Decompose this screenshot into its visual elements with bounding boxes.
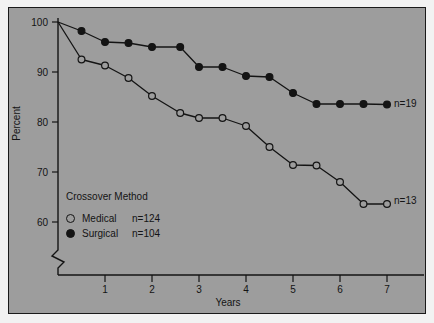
legend-row-surgical: Surgical n=104 bbox=[66, 226, 216, 241]
y-tick-label-100: 100 bbox=[22, 17, 48, 28]
legend: Crossover Method Medical n=124 Surgical … bbox=[66, 191, 216, 241]
open-circle-marker-icon bbox=[125, 75, 132, 82]
series-medical bbox=[58, 22, 390, 207]
filled-circle-marker-icon bbox=[149, 44, 156, 51]
y-tick-label-60: 60 bbox=[22, 217, 48, 228]
filled-circle-marker-icon bbox=[243, 73, 250, 80]
x-tick-label-4: 4 bbox=[236, 284, 256, 295]
x-tick-label-5: 5 bbox=[283, 284, 303, 295]
open-circle-marker-icon bbox=[219, 115, 226, 122]
open-circle-marker-icon bbox=[384, 201, 391, 208]
open-circle-marker-icon bbox=[313, 162, 320, 169]
open-circle-marker-icon bbox=[66, 214, 75, 223]
filled-circle-marker-icon bbox=[266, 74, 273, 81]
series-line-medical bbox=[58, 22, 387, 204]
open-circle-marker-icon bbox=[196, 115, 203, 122]
filled-circle-marker-icon bbox=[102, 39, 109, 46]
figure-container: 100 90 80 70 60 1 2 3 4 5 6 7 Percent Ye… bbox=[0, 0, 434, 323]
x-tick-label-1: 1 bbox=[95, 284, 115, 295]
legend-count-medical: n=124 bbox=[132, 213, 160, 224]
open-circle-marker-icon bbox=[102, 62, 109, 69]
open-circle-marker-icon bbox=[177, 110, 184, 117]
filled-circle-marker-icon bbox=[125, 40, 132, 47]
filled-circle-marker-icon bbox=[177, 44, 184, 51]
y-axis-title: Percent bbox=[11, 94, 22, 154]
annotation-medical-end: n=13 bbox=[394, 195, 417, 206]
y-tick-label-80: 80 bbox=[22, 117, 48, 128]
x-tick-label-6: 6 bbox=[330, 284, 350, 295]
filled-circle-marker-icon bbox=[384, 101, 391, 108]
filled-circle-marker-icon bbox=[66, 229, 75, 238]
legend-label-medical: Medical bbox=[82, 213, 132, 224]
chart-canvas bbox=[0, 0, 434, 323]
legend-row-medical: Medical n=124 bbox=[66, 211, 216, 226]
y-tick-label-70: 70 bbox=[22, 167, 48, 178]
open-circle-marker-icon bbox=[149, 93, 156, 100]
x-tick-label-3: 3 bbox=[189, 284, 209, 295]
legend-count-surgical: n=104 bbox=[132, 228, 160, 239]
filled-circle-marker-icon bbox=[337, 101, 344, 108]
y-axis-break-icon bbox=[52, 243, 64, 275]
y-tick-marks bbox=[52, 22, 58, 222]
open-circle-marker-icon bbox=[360, 201, 367, 208]
open-circle-marker-icon bbox=[78, 56, 85, 63]
filled-circle-marker-icon bbox=[360, 101, 367, 108]
x-tick-marks bbox=[105, 275, 387, 282]
filled-circle-marker-icon bbox=[313, 101, 320, 108]
open-circle-marker-icon bbox=[243, 123, 250, 130]
open-circle-marker-icon bbox=[337, 179, 344, 186]
open-circle-marker-icon bbox=[266, 144, 273, 151]
open-circle-marker-icon bbox=[290, 162, 297, 169]
filled-circle-marker-icon bbox=[219, 64, 226, 71]
filled-circle-marker-icon bbox=[78, 28, 85, 35]
x-tick-label-7: 7 bbox=[377, 284, 397, 295]
y-tick-label-90: 90 bbox=[22, 67, 48, 78]
x-tick-label-2: 2 bbox=[142, 284, 162, 295]
legend-title: Crossover Method bbox=[66, 191, 216, 202]
filled-circle-marker-icon bbox=[196, 64, 203, 71]
data-series-layer bbox=[58, 22, 390, 207]
annotation-surgical-end: n=19 bbox=[394, 98, 417, 109]
x-axis-title: Years bbox=[198, 297, 258, 308]
filled-circle-marker-icon bbox=[290, 90, 297, 97]
legend-label-surgical: Surgical bbox=[82, 228, 132, 239]
